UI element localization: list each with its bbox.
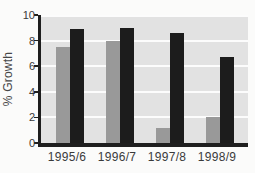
bar-black-series-1996/7 xyxy=(120,28,134,143)
y-tick-label-4: 4 xyxy=(0,85,35,99)
plot-area xyxy=(40,15,248,143)
x-tick-label-1996/7: 1996/7 xyxy=(89,150,145,164)
x-axis-line xyxy=(38,143,248,147)
y-tick-label-6: 6 xyxy=(0,59,35,73)
x-tick-label-1997/8: 1997/8 xyxy=(139,150,195,164)
y-axis-line xyxy=(38,15,41,147)
bar-gray-series-1997/8 xyxy=(156,128,170,143)
bar-black-series-1997/8 xyxy=(170,33,184,143)
y-tick-label-8: 8 xyxy=(0,34,35,48)
y-tick-label-10: 10 xyxy=(0,8,35,22)
bar-black-series-1995/6 xyxy=(70,29,84,143)
bar-chart-figure: % Growth 02468101995/61996/71997/81998/9 xyxy=(0,0,255,173)
x-tick-label-1995/6: 1995/6 xyxy=(39,150,95,164)
gridline-y10 xyxy=(40,15,248,17)
y-tick-label-2: 2 xyxy=(0,110,35,124)
bar-gray-series-1996/7 xyxy=(106,41,120,143)
y-tick-label-0: 0 xyxy=(0,136,35,150)
y-axis-title: % Growth xyxy=(0,47,16,111)
bar-gray-series-1995/6 xyxy=(56,47,70,143)
bar-gray-series-1998/9 xyxy=(206,117,220,143)
x-tick-label-1998/9: 1998/9 xyxy=(189,150,245,164)
bar-black-series-1998/9 xyxy=(220,57,234,143)
